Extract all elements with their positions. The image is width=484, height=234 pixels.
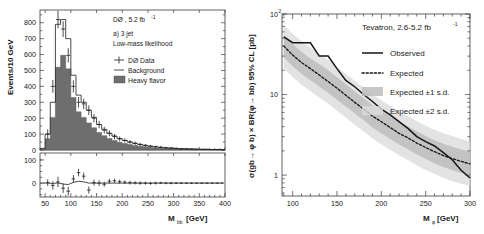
svg-text:a) 3 jet: a) 3 jet — [113, 30, 133, 38]
svg-text:0: 0 — [32, 146, 36, 155]
svg-text:Tevatron, 2.6-5.2 fb: Tevatron, 2.6-5.2 fb — [362, 23, 431, 32]
svg-text:M: M — [168, 214, 175, 223]
svg-text:-1: -1 — [453, 21, 458, 27]
legend-label-observed: Observed — [390, 49, 425, 58]
svg-text:[GeV]: [GeV] — [437, 214, 459, 223]
right-plot-svg: σ(gb→ φ b) × BR(φ→ bb) 95% CL [pb] 11010… — [240, 0, 484, 234]
legend-label-1sd: Expected ±1 s.d. — [390, 88, 450, 97]
svg-text:250: 250 — [142, 199, 154, 208]
legend-label-2sd: Expected ±2 s.d. — [390, 107, 450, 116]
svg-text:[GeV]: [GeV] — [186, 214, 208, 223]
svg-text:2: 2 — [279, 8, 282, 14]
legend-label-data: DØ Data — [128, 57, 155, 64]
svg-text:Events/10 GeV: Events/10 GeV — [6, 39, 15, 95]
svg-text:Low-mass likelihood: Low-mass likelihood — [113, 40, 173, 47]
left-x-axis-title: M bb [GeV] — [168, 214, 208, 225]
svg-text:100: 100 — [65, 199, 77, 208]
residual-baseline — [43, 181, 223, 184]
legend-label-expected: Expected — [390, 69, 423, 78]
left-annotations: DØ , 5.2 fb -1 a) 3 jet Low-mass likelih… — [113, 14, 173, 47]
svg-text:50: 50 — [41, 199, 49, 208]
svg-text:100: 100 — [287, 199, 299, 208]
right-panel: σ(gb→ φ b) × BR(φ→ bb) 95% CL [pb] 11010… — [240, 0, 484, 234]
svg-text:800: 800 — [24, 18, 36, 27]
svg-text:200: 200 — [24, 114, 36, 123]
svg-text:-1: -1 — [151, 14, 156, 20]
svg-text:150: 150 — [91, 199, 103, 208]
left-residual-frame — [40, 153, 225, 197]
svg-text:400: 400 — [24, 82, 36, 91]
svg-text:700: 700 — [24, 34, 36, 43]
svg-text:bb: bb — [177, 219, 183, 225]
svg-text:150: 150 — [331, 199, 343, 208]
svg-text:0: 0 — [32, 179, 36, 188]
figure-container: Events/10 GeV 0100200300400500600700800 … — [0, 0, 484, 234]
svg-text:10: 10 — [270, 90, 278, 99]
svg-text:300: 300 — [464, 199, 476, 208]
right-y-axis-title: σ(gb→ φ b) × BR(φ→ bb) 95% CL [pb] — [247, 34, 256, 178]
svg-text:300: 300 — [168, 199, 180, 208]
svg-text:σ(gb→ φ b) × BR(φ→ bb) 95% CL: σ(gb→ φ b) × BR(φ→ bb) 95% CL [pb] — [247, 34, 256, 178]
svg-text:M: M — [423, 214, 430, 223]
legend-marker-1sd-icon — [362, 87, 383, 96]
svg-text:200: 200 — [116, 199, 128, 208]
left-panel: Events/10 GeV 0100200300400500600700800 … — [0, 0, 240, 234]
svg-text:350: 350 — [193, 199, 205, 208]
legend-marker-data-icon — [114, 57, 124, 64]
left-legend: DØ Data Background Heavy flavor — [114, 57, 167, 85]
svg-text:φ: φ — [432, 219, 436, 225]
legend-label-heavyflavor: Heavy flavor — [128, 77, 167, 85]
left-residual-y-ticks: 0100 — [24, 156, 44, 195]
svg-text:600: 600 — [24, 50, 36, 59]
svg-text:300: 300 — [24, 98, 36, 107]
svg-text:1: 1 — [274, 171, 278, 180]
right-x-axis-title: M φ [GeV] — [423, 214, 459, 225]
right-title: Tevatron, 2.6-5.2 fb -1 — [362, 21, 458, 32]
legend-label-background: Background — [128, 67, 164, 75]
left-y-axis-title: Events/10 GeV — [6, 39, 15, 95]
svg-text:250: 250 — [420, 199, 432, 208]
svg-text:400: 400 — [219, 199, 231, 208]
svg-text:DØ , 5.2 fb: DØ , 5.2 fb — [113, 16, 145, 23]
svg-text:500: 500 — [24, 66, 36, 75]
svg-text:100: 100 — [24, 156, 36, 165]
svg-text:200: 200 — [375, 199, 387, 208]
legend-marker-heavyflavor-icon — [114, 76, 125, 83]
svg-text:10: 10 — [270, 10, 278, 19]
svg-text:100: 100 — [24, 130, 36, 139]
left-plot-svg: Events/10 GeV 0100200300400500600700800 … — [0, 0, 240, 234]
legend-marker-2sd-icon — [362, 106, 383, 115]
